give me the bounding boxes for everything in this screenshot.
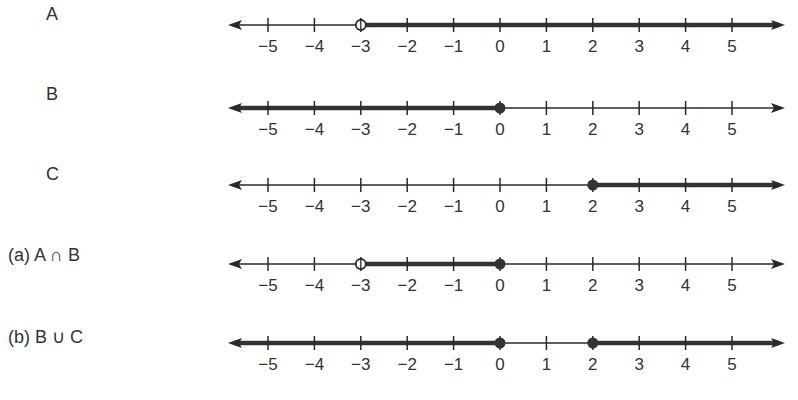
tick-label: 4 [681, 355, 690, 374]
tick-label: −4 [305, 355, 324, 374]
tick-label: 2 [588, 355, 597, 374]
tick-label: −5 [258, 355, 277, 374]
tick-label: 3 [634, 355, 643, 374]
closed-dot-icon [495, 338, 506, 349]
tick-label: 1 [542, 355, 551, 374]
closed-dot-icon [587, 338, 598, 349]
tick-label: 5 [727, 355, 736, 374]
number-line-b-union: −5−4−3−2−1012345 [0, 0, 798, 400]
tick-label: −1 [444, 355, 463, 374]
tick-label: −2 [398, 355, 417, 374]
tick-label: −3 [351, 355, 370, 374]
tick-label: 0 [495, 355, 504, 374]
